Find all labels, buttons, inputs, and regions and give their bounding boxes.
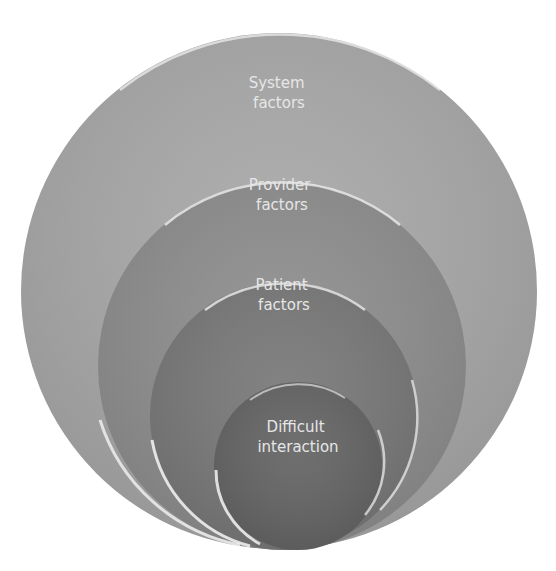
nested-circles-diagram: System factors Provider factors Patient … — [0, 0, 556, 571]
